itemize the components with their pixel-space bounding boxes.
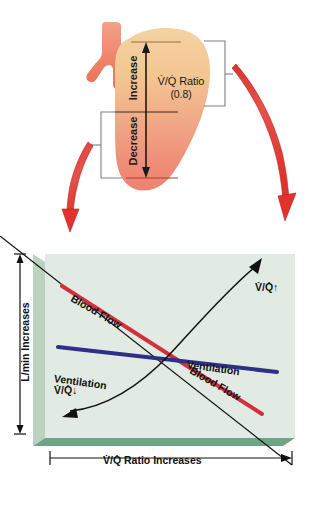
vq-up-annotation: V̇/Q̇↑: [255, 281, 278, 293]
diagram-root: V̇/Q̇ Ratio (0.8) Increase Decrease: [0, 0, 323, 512]
curved-arrow-down-right-icon: [232, 64, 296, 221]
vq-chart-svg: [0, 236, 323, 512]
y-axis-label: L/min Increases: [19, 282, 31, 402]
increase-label: Increase: [127, 49, 139, 107]
vq-ratio-label: V̇/Q̇ Ratio (0.8): [143, 75, 219, 100]
lung-figure-svg: [0, 0, 323, 240]
lung-figure: V̇/Q̇ Ratio (0.8) Increase Decrease: [0, 0, 323, 240]
vq-ratio-line1: V̇/Q̇ Ratio: [143, 75, 219, 88]
x-axis-label: V̇/Q̇ Ratio Increases: [103, 454, 202, 466]
decrease-label: Decrease: [127, 112, 139, 170]
chart-panel-bottom-bevel: [33, 438, 295, 446]
vq-chart: L/min Increases V̇/Q̇ Ratio Increases Lu…: [0, 236, 323, 512]
vq-ratio-line2: (0.8): [143, 88, 219, 101]
curved-arrow-down-left-icon: [62, 142, 93, 232]
vq-down-annotation: V̇/Q̇↓: [54, 384, 77, 396]
chart-panel-left-bevel: [33, 254, 45, 446]
